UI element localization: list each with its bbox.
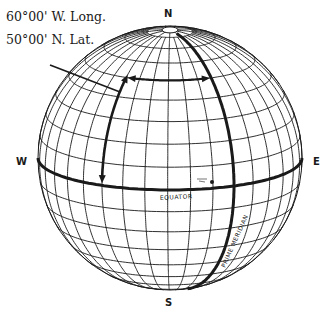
prime-meridian-label: PRIME MERIDIAN <box>220 213 250 268</box>
annotation-arrows <box>50 65 120 92</box>
equator-line <box>38 158 302 190</box>
parallel-line <box>57 227 282 250</box>
parallel-line <box>40 135 300 168</box>
meridian-line <box>168 31 170 290</box>
south-label: S <box>165 297 172 308</box>
north-pole-cap <box>162 27 178 33</box>
east-label: E <box>313 156 320 167</box>
arrowhead-down-icon <box>99 175 106 183</box>
parallel-line <box>69 71 271 101</box>
longitude-label: 60°00' W. Long. <box>6 9 106 24</box>
meridian-line <box>123 37 162 289</box>
globe-diagram: 60°00' W. Long. 50°00' N. Lat. N S W E E… <box>0 0 326 315</box>
meridian-line <box>174 37 191 290</box>
latitude-label: 50°00' N. Lat. <box>6 32 94 47</box>
location-dot-icon <box>210 180 214 184</box>
leader-line <box>50 65 120 92</box>
west-label: W <box>16 156 27 167</box>
parallel-line <box>56 90 285 122</box>
graticule-grid <box>38 26 302 290</box>
meridian-line <box>67 35 152 284</box>
equator-label: EQUATOR <box>160 192 193 201</box>
arrowhead-left-icon <box>128 75 136 82</box>
parallel-line <box>47 205 294 232</box>
greenwich-marker <box>197 179 214 184</box>
north-label: N <box>164 8 172 19</box>
meridian-line <box>40 33 148 230</box>
arrowhead-right-icon <box>201 75 209 82</box>
parallel-line <box>46 112 294 144</box>
meridian-line <box>55 31 166 279</box>
meridian-line <box>145 37 166 289</box>
